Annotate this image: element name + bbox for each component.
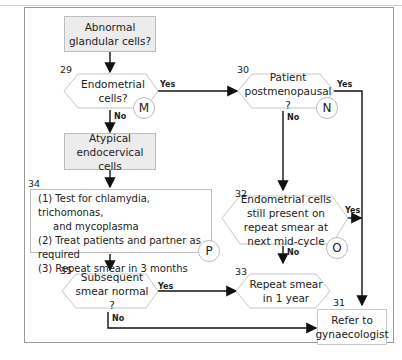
label-yes-35: Yes [158,282,173,291]
label-yes-29: Yes [160,80,175,89]
action-item: (2) Treat patients and partner as requir… [38,234,214,262]
marker-p: P [198,240,220,262]
action-item: and mycoplasma [38,220,214,234]
node-text: Subsequent smear normal ? [74,270,150,312]
node-atypical-endocervical-cells: Atypical endocervical cells [64,133,156,170]
node-abnormal-glandular-cells: Abnormal glandular cells? [64,16,156,52]
marker-o: O [326,237,348,259]
marker-m: M [133,97,155,119]
node-refer-to-gynaecologist: Refer to gynaecologist [317,309,387,345]
node-text: Abnormal glandular cells? [65,20,155,48]
action-list: (1) Test for chlamydia, trichomonas, and… [38,192,214,276]
label-no-32: No [287,248,299,257]
marker-n: N [316,97,338,119]
node-text: Repeat smear in 1 year [248,277,324,305]
decision-endometrial-cells-still-present: Endometrial cells still present on repea… [236,198,336,242]
step-number-31: 31 [333,297,345,308]
node-text: Endometrial cells still present on repea… [236,192,336,248]
label-no-30: No [287,113,299,122]
decision-subsequent-smear-normal: Subsequent smear normal ? [74,274,150,308]
label-no-29: No [114,112,126,121]
label-yes-30: Yes [337,80,352,89]
node-text: Atypical endocervical cells [65,131,155,173]
step-number-34: 34 [28,178,40,189]
step-number-33: 33 [235,266,247,277]
label-no-35: No [112,314,124,323]
node-repeat-smear-1-year: Repeat smear in 1 year [248,274,324,308]
action-item: (1) Test for chlamydia, trichomonas, [38,192,214,220]
step-number-35: 35 [60,265,72,276]
node-text: Refer to gynaecologist [315,313,388,341]
label-yes-32: Yes [345,206,360,215]
step-number-29: 29 [60,64,72,75]
